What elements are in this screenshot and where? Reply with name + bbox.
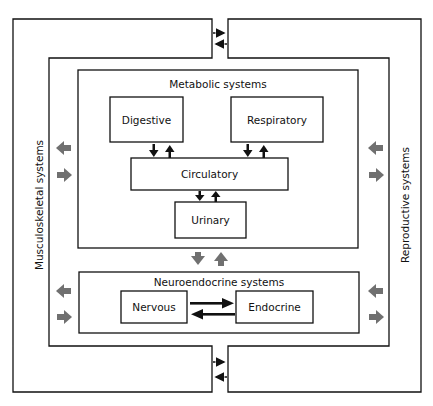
- gray-right-arrows: [368, 141, 384, 324]
- metabolic-systems-title: Metabolic systems: [78, 78, 358, 90]
- endocrine-label: Endocrine: [236, 291, 313, 323]
- top-dashed-arrows: [213, 33, 227, 44]
- nervous-label: Nervous: [121, 291, 187, 323]
- neuroendocrine-systems-title: Neuroendocrine systems: [79, 276, 359, 288]
- digestive-label: Digestive: [110, 97, 183, 142]
- nervous-endocrine-arrows: [190, 298, 235, 320]
- bottom-dashed-arrows: [213, 362, 227, 377]
- respiratory-label: Respiratory: [231, 97, 323, 142]
- musculoskeletal-systems-label: Musculoskeletal systems: [33, 135, 45, 275]
- gray-left-arrows: [56, 141, 72, 324]
- gray-vertical-arrows: [191, 252, 228, 266]
- circulatory-label: Circulatory: [131, 158, 288, 190]
- reproductive-frame: [228, 19, 421, 392]
- reproductive-systems-label: Reproductive systems: [399, 135, 411, 275]
- urinary-label: Urinary: [175, 202, 246, 238]
